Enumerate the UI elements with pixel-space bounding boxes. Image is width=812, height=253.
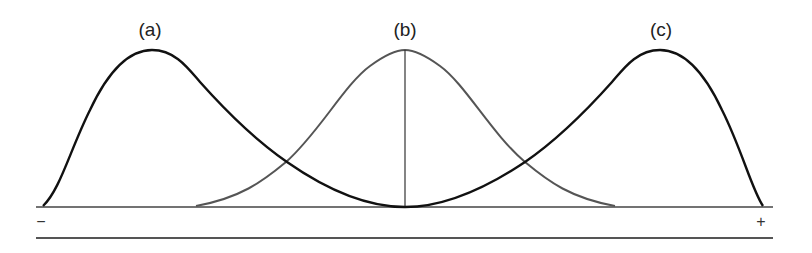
label-a: (a) [138,20,161,39]
curve-a-skewed [43,50,405,207]
negative-sign: − [36,214,45,230]
label-b: (b) [393,20,416,39]
label-c: (c) [650,20,672,39]
curve-c-skewed [405,50,763,207]
positive-sign: + [756,214,765,230]
skewness-diagram: (a) (b) (c) − + [0,0,812,253]
